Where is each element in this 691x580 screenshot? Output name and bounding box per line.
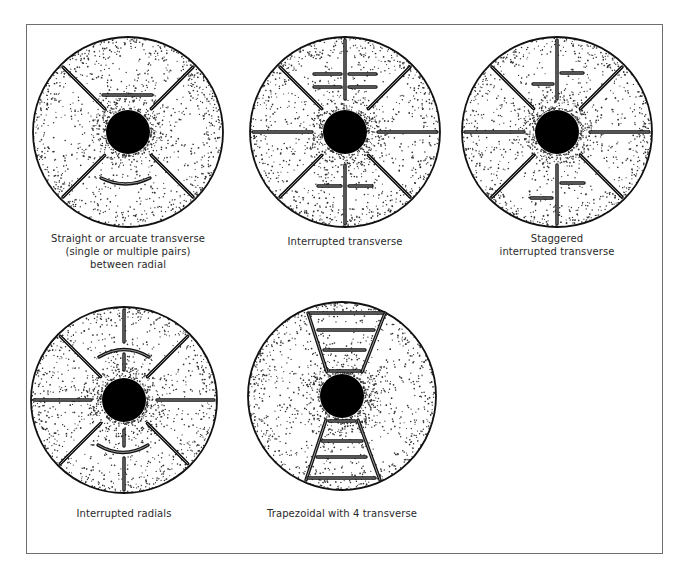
panel-interrupted-radials	[30, 306, 217, 493]
panel-staggered-interrupted-transverse	[461, 37, 652, 227]
panel-straight-arcuate	[32, 36, 223, 228]
hub	[102, 378, 146, 422]
hub	[320, 374, 364, 418]
panel-trapezoidal	[247, 301, 436, 490]
caption-straight-arcuate: Straight or arcuate transverse (single o…	[28, 232, 228, 271]
panel-interrupted-transverse	[250, 36, 441, 227]
caption-interrupted-transverse: Interrupted transverse	[245, 235, 445, 248]
hub	[106, 110, 150, 154]
caption-staggered-interrupted-transverse: Staggered interrupted transverse	[457, 232, 657, 258]
rotor-groove-diagrams	[0, 0, 691, 580]
hub	[535, 110, 579, 154]
hub	[323, 110, 367, 154]
caption-trapezoidal: Trapezoidal with 4 transverse	[242, 507, 442, 520]
caption-interrupted-radials: Interrupted radials	[24, 507, 224, 520]
